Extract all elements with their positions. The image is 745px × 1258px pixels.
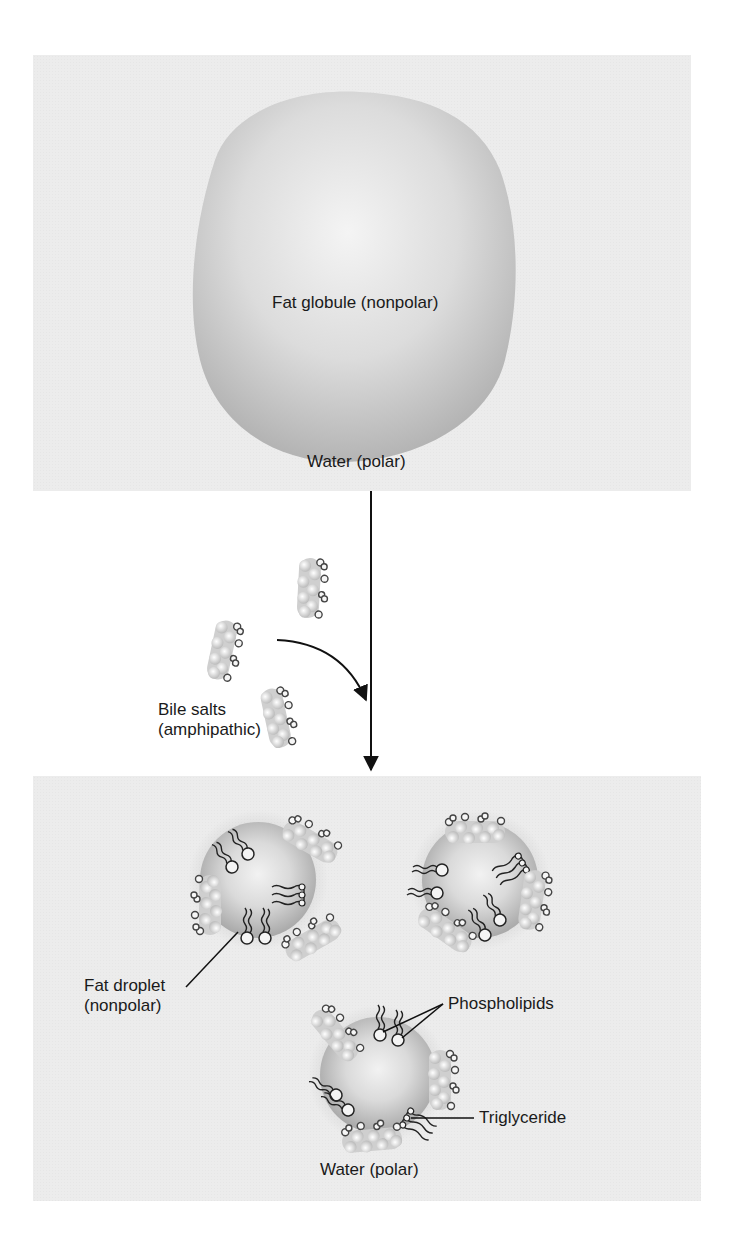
bile-salts-label-line1: Bile salts [158,700,226,720]
top-water-label: Water (polar) [307,452,406,472]
fat-droplet-label-line2: (nonpolar) [84,996,162,1016]
diagram-graphics [0,0,745,1258]
bile-salt-merge-arrow [277,640,366,700]
fat-globule [193,92,516,462]
fat-droplet-1 [188,810,345,965]
fat-globule-label: Fat globule (nonpolar) [272,293,438,313]
fat-droplet-label-line1: Fat droplet [84,976,165,996]
fat-droplet-2 [407,810,555,957]
phospholipids-label: Phospholipids [448,994,554,1014]
fat-droplet-3 [307,1000,459,1155]
triglyceride-label: Triglyceride [479,1108,566,1128]
bottom-water-label: Water (polar) [320,1160,419,1180]
fat-droplet-leader [186,932,238,987]
bile-salts-label-line2: (amphipathic) [158,720,261,740]
